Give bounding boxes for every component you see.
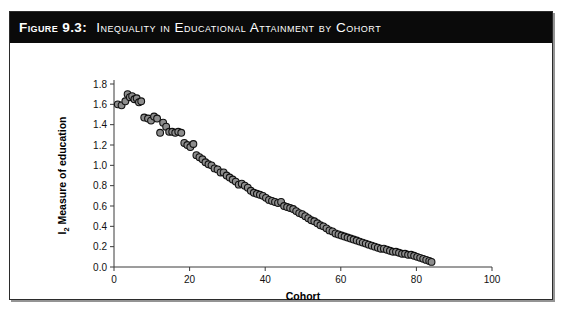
figure-number-label: Figure 9.3:	[19, 20, 87, 35]
scatter-plot-svg: 0.00.20.40.60.81.01.21.41.61.8 020406080…	[10, 43, 552, 300]
x-tick-label: 100	[484, 274, 501, 285]
y-tick-label: 0.4	[93, 221, 107, 232]
y-tick-label: 0.2	[93, 241, 107, 252]
data-point	[190, 141, 197, 148]
y-axis-title: I2 Measure of education	[56, 117, 71, 235]
x-tick-label: 40	[260, 274, 272, 285]
y-axis-title-main: Measure of education	[56, 117, 68, 228]
y-tick-label: 1.2	[93, 140, 107, 151]
figure-container: Figure 9.3: Inequality in Educational At…	[9, 11, 553, 300]
data-point	[138, 98, 145, 105]
data-point	[178, 129, 185, 136]
data-point	[157, 129, 164, 136]
data-point	[428, 259, 435, 266]
axes-group	[114, 80, 492, 267]
figure-caption-bar: Figure 9.3: Inequality in Educational At…	[10, 12, 552, 43]
x-tick-label: 80	[411, 274, 423, 285]
y-tick-label: 1.6	[93, 99, 107, 110]
x-tick-label: 60	[335, 274, 347, 285]
x-tick-label: 0	[111, 274, 117, 285]
x-axis-ticks: 020406080100	[111, 267, 501, 285]
data-points-group	[114, 91, 435, 266]
figure-title: Inequality in Educational Attainment by …	[96, 20, 381, 35]
y-tick-label: 1.4	[93, 119, 107, 130]
y-tick-label: 0.0	[93, 262, 107, 273]
x-tick-label: 20	[184, 274, 196, 285]
y-axis-ticks: 0.00.20.40.60.81.01.21.41.61.8	[93, 79, 114, 273]
plot-area: 0.00.20.40.60.81.01.21.41.61.8 020406080…	[10, 43, 552, 300]
data-point	[154, 115, 161, 122]
x-axis-title: Cohort	[286, 290, 321, 300]
y-tick-label: 0.6	[93, 201, 107, 212]
y-tick-label: 0.8	[93, 180, 107, 191]
y-tick-label: 1.8	[93, 79, 107, 90]
y-tick-label: 1.0	[93, 160, 107, 171]
